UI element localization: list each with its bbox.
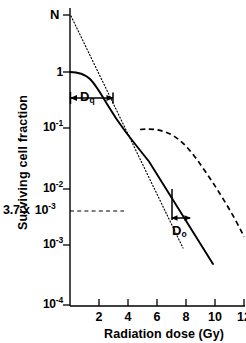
y-tick-label-10-4: 10-4 (43, 298, 63, 310)
y-tick-label-10-2: 10-2 (43, 182, 63, 194)
dq-annotation-label: Dq (80, 90, 95, 103)
y-axis-title: Surviving cell fraction (17, 95, 30, 230)
do-annotation-marker (172, 189, 190, 220)
y-tick-label-10-3: 10-3 (43, 238, 63, 250)
x-tick-label-4: 4 (121, 311, 135, 324)
y-axis-ticks (63, 15, 70, 305)
threshold-power: -3 (48, 201, 55, 211)
x-axis-ticks (99, 299, 244, 306)
do-arrowhead-right (185, 215, 192, 221)
x-axis-title: Radiation dose (Gy) (104, 328, 224, 341)
x-tick-label-10: 10 (205, 311, 225, 324)
x-tick-label-12: 12 (234, 311, 246, 324)
threshold-mantissa: 10 (35, 203, 49, 217)
y-tick-label-1: 1 (57, 66, 63, 78)
x-tick-label-8: 8 (179, 311, 193, 324)
extrapolation-number-label-n: N (50, 8, 59, 21)
x-tick-label-2: 2 (92, 311, 106, 324)
resistant-subpopulation-curve-dashed (140, 129, 244, 237)
do-annotation-label: Do (172, 224, 187, 237)
radiation-survival-curve-figure: 1 10-1 10-2 10-3 10-4 N 3.7 x10-3 2 4 6 … (0, 0, 246, 343)
chart-plot-area (0, 0, 246, 343)
x-tick-label-6: 6 (150, 311, 164, 324)
y-tick-label-10-1: 10-1 (43, 121, 63, 133)
